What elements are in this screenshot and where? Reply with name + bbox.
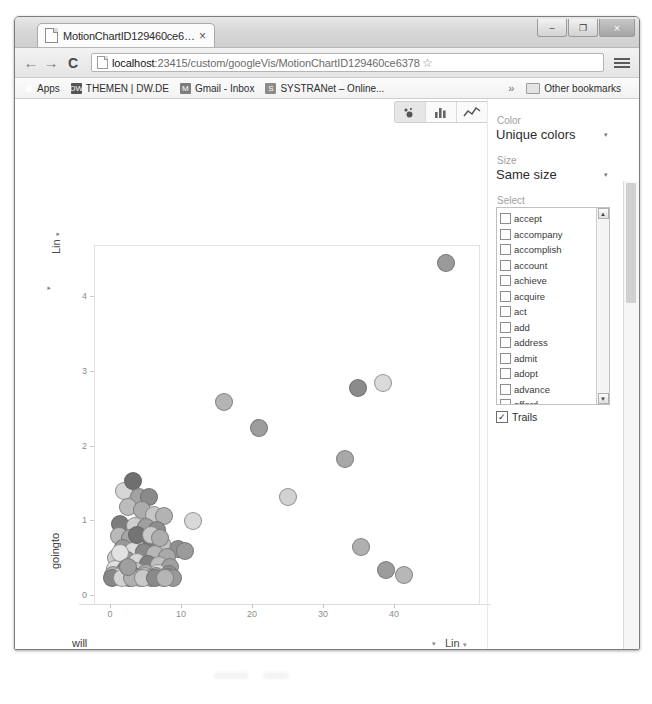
select-list-item[interactable]: advance [500,382,596,398]
bookmark-apps[interactable]: ▦ Apps [22,83,60,94]
select-list-scrollbar[interactable]: ▲ ▼ [596,208,609,404]
close-button[interactable]: × [599,19,635,37]
color-select[interactable]: Unique colors ▾ [496,127,608,143]
x-tick-mark [252,604,253,608]
browser-tab[interactable]: MotionChartID129460ce6… × [37,23,215,47]
data-point[interactable] [215,393,233,411]
select-item-label: act [514,306,527,317]
select-list-item[interactable]: accept [500,211,596,227]
checkbox-icon[interactable] [500,291,511,302]
screenshot-root: MotionChartID129460ce6… × – ❐ × ← → C lo… [0,0,652,704]
data-point[interactable] [349,379,367,397]
title-bar: MotionChartID129460ce6… × – ❐ × [15,17,639,48]
entity-select-list[interactable]: acceptaccompanyaccomplishaccountachievea… [496,207,610,405]
data-point[interactable] [374,374,392,392]
checkbox-icon[interactable] [500,322,511,333]
y-tick-label: 4 [73,291,87,301]
checkbox-icon[interactable] [500,213,511,224]
checkbox-icon[interactable] [500,399,511,404]
select-item-label: afford [514,399,538,404]
url-host: localhost [112,57,155,69]
tab-title: MotionChartID129460ce6… [63,30,195,42]
bookmark-label: Apps [37,83,60,94]
chart-controls-panel: Color Unique colors ▾ Size Same size ▾ S… [487,99,619,650]
checkbox-icon[interactable] [500,353,511,364]
select-list-item[interactable]: accomplish [500,242,596,258]
page-scrollbar-thumb[interactable] [626,183,636,303]
checkbox-icon[interactable] [500,337,511,348]
select-item-label: accept [514,213,542,224]
bubble-chart-tab[interactable] [395,102,426,122]
y-axis-title[interactable]: goingto [49,533,61,569]
data-point[interactable] [336,450,354,468]
checkbox-icon[interactable] [500,306,511,317]
select-list-item[interactable]: add [500,320,596,336]
checkbox-icon[interactable] [500,275,511,286]
x-tick-label: 10 [171,609,191,619]
checkbox-icon[interactable] [500,244,511,255]
checkbox-icon[interactable] [500,368,511,379]
select-list-item[interactable]: accompany [500,227,596,243]
bar-chart-tab[interactable] [426,102,457,122]
scroll-up-icon[interactable]: ▲ [598,208,609,219]
address-bar[interactable]: localhost:23415/custom/googleVis/MotionC… [91,53,604,72]
gmail-icon: M [180,83,191,94]
bookmarks-overflow-icon[interactable]: » [508,82,514,94]
reload-icon[interactable]: C [63,56,83,70]
x-axis-scale-selector[interactable]: Lin ▾ [445,637,467,649]
checkbox-icon[interactable] [500,384,511,395]
data-point[interactable] [352,538,370,556]
page-icon [45,28,58,43]
bookmark-star-icon[interactable]: ☆ [422,56,433,70]
navigation-toolbar: ← → C localhost:23415/custom/googleVis/M… [15,48,639,78]
forward-icon[interactable]: → [41,55,61,70]
select-list-item[interactable]: adopt [500,366,596,382]
maximize-button[interactable]: ❐ [568,19,598,37]
y-axis-menu-icon[interactable]: ▾ [45,286,53,290]
size-select[interactable]: Same size ▾ [496,167,608,183]
y-axis-scale-selector[interactable]: Lin▾ [50,232,62,254]
y-tick-mark [90,371,94,372]
minimize-button[interactable]: – [537,19,567,37]
bookmark-systran[interactable]: S SYSTRANet – Online... [265,83,384,94]
data-point[interactable] [437,254,455,272]
checkbox-icon[interactable] [500,229,511,240]
other-bookmarks[interactable]: Other bookmarks [526,83,621,94]
checkbox-icon[interactable] [500,260,511,271]
select-list-item[interactable]: account [500,258,596,274]
line-chart-icon [462,106,482,119]
data-point[interactable] [184,512,202,530]
chevron-down-icon: ▾ [604,171,608,179]
select-list-item[interactable]: achieve [500,273,596,289]
select-item-label: accompany [514,229,563,240]
data-point[interactable] [250,419,268,437]
page-info-icon [97,56,108,69]
scroll-down-icon[interactable]: ▼ [598,393,609,404]
checkbox-icon: ✓ [496,411,508,423]
tab-close-icon[interactable]: × [195,30,210,42]
x-axis-menu-icon[interactable]: ▾ [432,640,436,648]
select-list-item[interactable]: act [500,304,596,320]
select-item-label: accomplish [514,244,562,255]
page-scrollbar[interactable] [623,181,639,650]
background-smudge [214,672,248,679]
select-list-item[interactable]: admit [500,351,596,367]
x-tick-mark [394,604,395,608]
bookmarks-bar: ▦ Apps DW THEMEN | DW.DE M Gmail - Inbox… [15,78,639,99]
select-list-item[interactable]: address [500,335,596,351]
trails-checkbox[interactable]: ✓ Trails [496,411,619,423]
bar-chart-icon [432,106,450,119]
plot-area[interactable] [94,245,480,605]
data-point[interactable] [176,542,194,560]
data-point[interactable] [377,561,395,579]
bookmark-dw[interactable]: DW THEMEN | DW.DE [71,83,169,94]
line-chart-tab[interactable] [457,102,487,122]
data-point[interactable] [279,488,297,506]
x-axis-title[interactable]: will [72,637,87,649]
bookmark-gmail[interactable]: M Gmail - Inbox [180,83,254,94]
menu-icon[interactable] [614,58,630,68]
select-list-item[interactable]: acquire [500,289,596,305]
data-point[interactable] [395,566,413,584]
back-icon[interactable]: ← [21,55,41,70]
select-list-item[interactable]: afford [500,397,596,404]
